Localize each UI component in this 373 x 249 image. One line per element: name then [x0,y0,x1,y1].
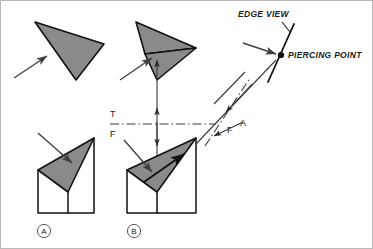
auxiliary-projectors [196,60,276,144]
view-b-top-pointer [120,58,152,80]
fold-line-fa: F A [205,78,250,146]
view-b-top-plane [136,22,196,80]
view-a-block-pointer [38,133,72,163]
fold-label-t: T [110,109,116,119]
view-label-b-text: B [131,227,136,236]
fold-line-tf: T F [110,109,216,139]
fold-line-inclined [205,78,250,146]
technical-drawing-svg: A T F [0,0,373,249]
triangle-plane-b-front [127,138,196,192]
fold-label-f: F [110,129,116,139]
view-a-top-pointer [14,56,47,78]
edge-view-label: EDGE VIEW [238,9,290,19]
arrow-icon [243,43,276,54]
projection-line-cross [214,72,245,104]
triangle-plane-b-lower [145,48,196,80]
piercing-point-label: PIERCING POINT [288,50,362,60]
fold-label-f-aux: F [227,125,233,135]
figure-canvas: A T F [0,0,373,249]
view-b-block [124,138,196,213]
view-a-top-plane [35,22,104,80]
piercing-point-group: PIERCING POINT [243,43,362,60]
triangle-plane-a [35,22,104,80]
view-label-a-text: A [41,227,47,236]
point-marker-icon [278,52,284,58]
view-label-a: A [37,224,50,237]
view-a-block [38,138,94,213]
view-label-b: B [127,224,140,237]
arrow-icon [38,133,72,163]
arrow-icon [120,58,152,80]
triangle-plane-a-front [38,138,94,192]
arrow-icon [14,56,47,78]
edge-view-leader [282,22,290,32]
